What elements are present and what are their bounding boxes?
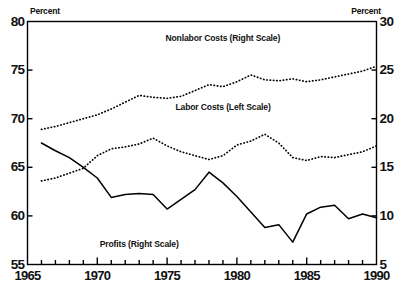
series-label-nonlabor-costs: Nonlabor Costs (Right Scale) [165,33,280,43]
series-line-nonlabor-costs [41,66,376,129]
x-tick-1965: 1965 [6,269,50,282]
series-label-labor-costs: Labor Costs (Left Scale) [175,102,270,112]
left-tick-65: 65 [0,160,25,174]
left-tick-75: 75 [0,63,25,77]
right-tick-15: 15 [380,160,406,174]
left-tick-80: 80 [0,15,25,29]
right-tick-25: 25 [380,63,406,77]
series-layer [41,66,376,242]
right-axis-ticks [372,70,377,216]
chart-container: Percent Percent 807570656055 30252015105… [0,0,412,294]
plot-frame [28,22,377,265]
left-axis-ticks [28,70,33,216]
x-tick-1970: 1970 [75,269,119,282]
right-tick-10: 10 [380,209,406,223]
left-tick-60: 60 [0,209,25,223]
left-tick-70: 70 [0,112,25,126]
series-label-profits: Profits (Right Scale) [100,239,179,249]
right-tick-30: 30 [380,15,406,29]
right-tick-20: 20 [380,112,406,126]
x-tick-1975: 1975 [145,269,189,282]
plot-area [0,0,412,294]
x-tick-1985: 1985 [285,269,329,282]
x-tick-1980: 1980 [215,269,259,282]
x-axis-ticks [41,258,362,265]
series-line-profits [41,143,376,242]
x-tick-1990: 1990 [355,269,399,282]
